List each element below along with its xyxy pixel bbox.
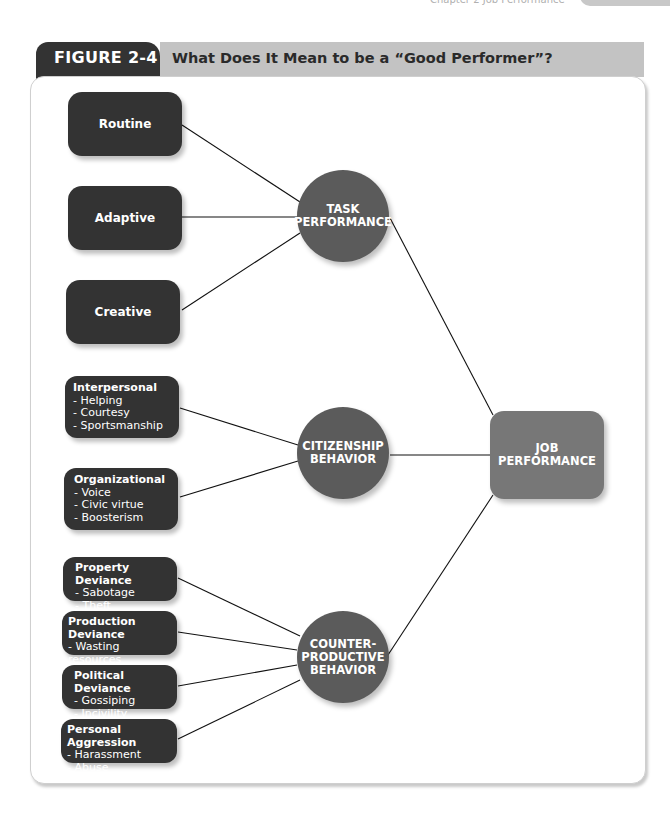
facet-item: - Gossiping	[74, 695, 171, 708]
facet-item: - Civic virtue	[74, 499, 170, 512]
facet-item: - Wasting resources	[68, 641, 173, 666]
facet-label: Routine	[99, 117, 152, 131]
node-label: PERFORMANCE	[294, 216, 392, 229]
facet-production-deviance: Production Deviance - Wasting resources …	[62, 611, 177, 655]
node-label: BEHAVIOR	[310, 453, 376, 466]
node-label: COUNTER-	[310, 638, 377, 651]
facet-title: Production Deviance	[68, 616, 173, 641]
facet-property-deviance: Property Deviance - Sabotage - Theft	[63, 557, 177, 601]
facet-title: Political Deviance	[74, 670, 171, 695]
facet-routine: Routine	[68, 92, 182, 156]
facet-title: Interpersonal	[73, 382, 171, 395]
node-task-performance: TASK PERFORMANCE	[297, 170, 389, 262]
facet-political-deviance: Political Deviance - Gossiping - Incivil…	[62, 665, 177, 709]
facet-item: - Courtesy	[73, 407, 171, 420]
node-label: PERFORMANCE	[498, 455, 596, 468]
node-label: BEHAVIOR	[310, 664, 376, 677]
node-job-performance: JOB PERFORMANCE	[490, 411, 604, 499]
node-citizenship-behavior: CITIZENSHIP BEHAVIOR	[297, 407, 389, 499]
facet-personal-aggression: Personal Aggression - Harassment - Abuse	[61, 719, 177, 763]
facet-title: Personal Aggression	[67, 724, 173, 749]
facet-title: Property Deviance	[75, 562, 169, 587]
facet-interpersonal: Interpersonal - Helping - Courtesy - Spo…	[65, 376, 179, 438]
facet-label: Adaptive	[95, 211, 155, 225]
node-label: PRODUCTIVE	[301, 651, 384, 664]
node-counterproductive-behavior: COUNTER- PRODUCTIVE BEHAVIOR	[297, 611, 389, 703]
facet-organizational: Organizational - Voice - Civic virtue - …	[64, 468, 178, 530]
facet-item: - Boosterism	[74, 512, 170, 525]
facet-item: - Harassment	[67, 749, 173, 762]
facet-item: - Sabotage	[75, 587, 169, 600]
facet-item: - Sportsmanship	[73, 420, 171, 433]
facet-label: Creative	[95, 305, 152, 319]
facet-title: Organizational	[74, 474, 170, 487]
facet-creative: Creative	[66, 280, 180, 344]
facet-item: - Abuse	[67, 762, 173, 775]
facet-adaptive: Adaptive	[68, 186, 182, 250]
